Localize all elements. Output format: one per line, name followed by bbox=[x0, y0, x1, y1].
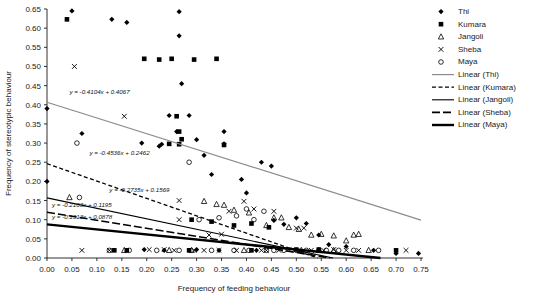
data-point bbox=[79, 131, 84, 136]
scatter-chart: 0.000.050.100.150.200.250.300.350.400.45… bbox=[0, 0, 541, 299]
x-tick-label: 0.45 bbox=[264, 265, 280, 274]
legend-label-Thi: Thi bbox=[458, 7, 469, 16]
data-point bbox=[177, 33, 182, 38]
data-point bbox=[44, 179, 49, 184]
trendline-Linear (Kumara) bbox=[47, 164, 318, 258]
data-point bbox=[252, 207, 257, 212]
x-tick-label: 0.10 bbox=[89, 265, 105, 274]
data-point bbox=[122, 114, 127, 119]
trendline-equation: y = -0.2103x + 0.1195 bbox=[51, 201, 112, 208]
y-tick-label: 0.65 bbox=[25, 5, 41, 14]
legend-marker-Thi bbox=[438, 9, 443, 14]
data-point bbox=[177, 198, 182, 203]
data-point bbox=[157, 57, 162, 62]
data-point bbox=[232, 248, 237, 253]
legend-marker-Sheba bbox=[439, 47, 444, 52]
y-tick-label: 0.45 bbox=[25, 82, 41, 91]
data-point bbox=[77, 195, 82, 200]
data-point bbox=[404, 248, 409, 253]
data-point bbox=[416, 251, 421, 256]
data-point bbox=[438, 9, 443, 14]
legend-label-Linear (Sheba): Linear (Sheba) bbox=[458, 108, 511, 117]
x-tick-label: 0.40 bbox=[239, 265, 255, 274]
trendline-Linear (Maya) bbox=[47, 224, 380, 258]
data-point bbox=[207, 233, 212, 238]
data-point bbox=[344, 238, 349, 243]
data-point bbox=[336, 248, 341, 253]
x-tick-label: 0.35 bbox=[214, 265, 230, 274]
data-point bbox=[189, 217, 194, 222]
y-tick-label: 0.00 bbox=[25, 254, 41, 263]
legend-label-Linear (Kumara): Linear (Kumara) bbox=[458, 83, 516, 92]
data-point bbox=[162, 248, 167, 253]
data-point bbox=[192, 57, 197, 62]
data-point bbox=[371, 248, 376, 253]
data-point bbox=[244, 207, 249, 212]
data-point bbox=[44, 106, 49, 111]
data-point bbox=[187, 160, 192, 165]
data-point bbox=[394, 248, 399, 253]
data-point bbox=[154, 248, 159, 253]
trendline-equation: y = -0.1313x + 0.0878 bbox=[51, 213, 113, 220]
x-tick-label: 0.20 bbox=[139, 265, 155, 274]
data-point bbox=[294, 215, 299, 220]
y-tick-label: 0.15 bbox=[25, 197, 41, 206]
x-tick-label: 0.70 bbox=[388, 265, 404, 274]
series-kumara bbox=[65, 17, 399, 253]
x-tick-label: 0.60 bbox=[338, 265, 354, 274]
data-point bbox=[67, 194, 72, 199]
y-tick-label: 0.05 bbox=[25, 235, 41, 244]
data-point bbox=[439, 22, 444, 27]
data-point bbox=[262, 209, 267, 214]
y-tick-label: 0.35 bbox=[25, 120, 41, 129]
x-axis-title: Frequency of feeding behaviour bbox=[178, 284, 291, 293]
data-point bbox=[167, 113, 172, 118]
legend-label-Jangoli: Jangoli bbox=[458, 32, 484, 41]
data-point bbox=[227, 209, 232, 214]
data-point bbox=[201, 198, 206, 203]
data-point bbox=[366, 247, 371, 252]
data-point bbox=[75, 141, 80, 146]
x-tick-label: 0.30 bbox=[189, 265, 205, 274]
data-point bbox=[177, 9, 182, 14]
data-point bbox=[252, 217, 257, 222]
legend-label-Linear (Maya): Linear (Maya) bbox=[458, 120, 508, 129]
data-point bbox=[69, 8, 74, 13]
data-point bbox=[209, 172, 214, 177]
data-point bbox=[326, 242, 331, 247]
x-tick-label: 0.25 bbox=[164, 265, 180, 274]
data-point bbox=[279, 215, 284, 220]
data-point bbox=[439, 60, 444, 65]
x-tick-label: 0.75 bbox=[413, 265, 429, 274]
data-point bbox=[286, 224, 291, 229]
data-point bbox=[271, 209, 276, 214]
data-point bbox=[187, 113, 192, 118]
data-point bbox=[439, 47, 444, 52]
data-point bbox=[356, 231, 361, 236]
data-point bbox=[222, 143, 227, 148]
data-point bbox=[244, 190, 249, 195]
legend-marker-Maya bbox=[439, 60, 444, 65]
data-point bbox=[179, 81, 184, 86]
data-point bbox=[139, 140, 144, 145]
data-point bbox=[241, 247, 246, 252]
data-point bbox=[142, 247, 147, 252]
data-point bbox=[177, 129, 182, 134]
data-point bbox=[112, 248, 117, 253]
legend-label-Maya: Maya bbox=[458, 57, 478, 66]
chart-canvas: 0.000.050.100.150.200.250.300.350.400.45… bbox=[0, 0, 541, 299]
data-point bbox=[202, 248, 207, 253]
x-tick-label: 0.50 bbox=[289, 265, 305, 274]
data-point bbox=[351, 248, 356, 253]
data-point bbox=[259, 248, 264, 253]
x-tick-label: 0.05 bbox=[64, 265, 80, 274]
data-point bbox=[331, 233, 336, 238]
y-tick-label: 0.55 bbox=[25, 43, 41, 52]
y-tick-label: 0.20 bbox=[25, 177, 41, 186]
data-point bbox=[197, 217, 202, 222]
data-point bbox=[109, 17, 114, 22]
data-point bbox=[65, 17, 70, 22]
data-point bbox=[304, 221, 309, 226]
data-point bbox=[72, 64, 77, 69]
y-tick-label: 0.10 bbox=[25, 216, 41, 225]
